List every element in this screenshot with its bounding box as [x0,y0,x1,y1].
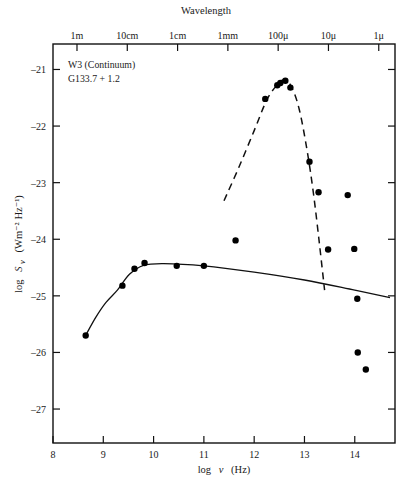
data-point [141,260,147,266]
top-tick-label: 10μ [321,30,336,41]
top-tick-label: 1cm [169,30,186,41]
spectral-energy-distribution-figure: Wavelength 1m10cm1cm1mm100μ10μ1μ 8910111… [0,0,413,487]
left-tick-label: –23 [30,178,46,189]
free-free-continuum-fit [86,264,390,335]
data-point [287,84,293,90]
data-point [201,263,207,269]
data-points-group [82,78,369,373]
data-point [131,265,137,271]
bottom-tick-label: 10 [149,449,159,460]
data-point [174,263,180,269]
left-tick-label: –21 [30,64,46,75]
data-point [232,237,238,243]
data-point [262,96,268,102]
x-axis-title-nu: ν [219,464,224,475]
y-axis-title-log: log [13,279,24,293]
y-axis-title: log S ν (Wm⁻² Hz⁻¹) [13,195,27,293]
top-tick-label: 1m [71,30,84,41]
x-axis-title: log ν (Hz) [198,464,251,476]
data-point [345,192,351,198]
top-axis-tick-labels: 1m10cm1cm1mm100μ10μ1μ [71,30,384,41]
top-tick-label: 1μ [374,30,384,41]
x-axis-title-log: log [198,464,212,475]
data-point [355,349,361,355]
y-axis-title-nu: ν [17,260,27,264]
data-point [119,282,125,288]
data-point [306,159,312,165]
left-tick-label: –27 [30,404,46,415]
y-axis-title-unit: (Wm⁻² Hz⁻¹) [13,195,25,253]
y-axis-title-s: S [13,266,24,272]
top-axis-ticks [77,44,379,51]
bottom-tick-label: 9 [101,449,106,460]
data-point [325,246,331,252]
left-tick-label: –25 [30,291,46,302]
data-point [82,332,88,338]
left-axis-title-group: log S ν (Wm⁻² Hz⁻¹) [13,195,27,293]
plot-canvas: Wavelength 1m10cm1cm1mm100μ10μ1μ 8910111… [0,0,413,487]
wavelength-axis-title: Wavelength [181,5,232,16]
left-tick-label: –22 [30,121,46,132]
bottom-axis-tick-labels: 891011121314 [51,449,360,460]
bottom-tick-label: 8 [51,449,56,460]
x-axis-title-unit: (Hz) [231,464,251,476]
left-axis-tick-labels: –21–22–23–24–25–26–27 [30,64,46,415]
data-point [363,366,369,372]
data-point [282,78,288,84]
bottom-tick-label: 13 [299,449,309,460]
dust-emission-fit [224,80,325,291]
top-axis-title-group: Wavelength [181,5,232,16]
bottom-tick-label: 14 [350,449,360,460]
left-tick-label: –24 [30,234,46,245]
data-point [351,246,357,252]
left-axis-ticks [53,69,60,409]
axes-frame [53,44,395,443]
plot-frame-rect [53,44,395,443]
top-tick-label: 100μ [268,30,288,41]
top-tick-label: 1mm [218,30,239,41]
top-tick-label: 10cm [116,30,138,41]
source-annotation-group: W3 (Continuum) G133.7 + 1.2 [68,59,135,84]
right-axis-ticks [388,69,395,409]
fitted-curves-group [86,80,390,335]
data-point [315,189,321,195]
bottom-axis-ticks [53,436,355,443]
source-designation-label: G133.7 + 1.2 [68,73,120,84]
data-point [354,295,360,301]
bottom-tick-label: 11 [199,449,209,460]
left-tick-label: –26 [30,347,46,358]
bottom-axis-title-group: log ν (Hz) [198,464,251,476]
bottom-tick-label: 12 [249,449,259,460]
source-name-label: W3 (Continuum) [68,59,135,71]
